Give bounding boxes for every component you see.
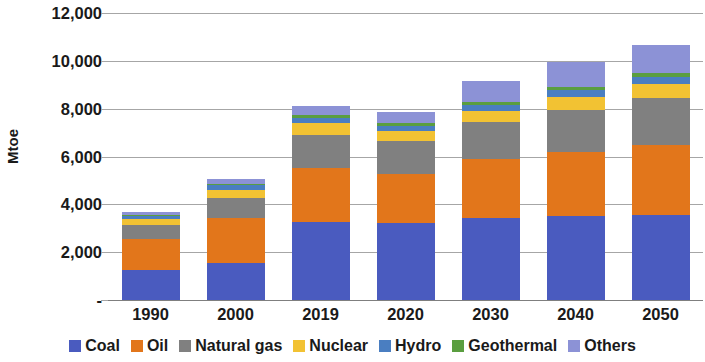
bar-group[interactable] [547,62,605,300]
bar-segment[interactable] [547,152,605,217]
x-tick-label: 2040 [533,305,618,324]
plot-area [108,13,703,300]
x-tick-label: 1990 [108,305,193,324]
legend-label: Oil [147,338,168,354]
legend-swatch-icon [568,340,580,352]
legend-item[interactable]: Oil [131,338,168,354]
bar-segment[interactable] [632,84,690,98]
legend-item[interactable]: Geothermal [452,338,557,354]
bar-segment[interactable] [122,225,180,239]
x-tick-label: 2050 [618,305,703,324]
bar-series-container [108,13,703,300]
bar-segment[interactable] [292,168,350,221]
axis-tick-mark [101,300,108,301]
legend-label: Others [584,338,636,354]
bar-group[interactable] [632,45,690,300]
legend-label: Hydro [395,338,441,354]
legend-swatch-icon [379,340,391,352]
bar-segment[interactable] [377,131,435,141]
legend-item[interactable]: Coal [69,338,120,354]
bar-group[interactable] [462,81,520,300]
y-tick-label: 10,000 [26,53,102,70]
legend-label: Nuclear [309,338,368,354]
bar-segment[interactable] [632,45,690,73]
y-tick-label: 4,000 [26,196,102,213]
axis-tick-mark [101,204,108,205]
y-tick-label: 12,000 [26,5,102,22]
bar-group[interactable] [122,212,180,300]
gridline [108,300,703,301]
legend-item[interactable]: Nuclear [293,338,368,354]
bar-segment[interactable] [207,263,265,300]
bar-segment[interactable] [547,110,605,152]
bar-segment[interactable] [462,218,520,301]
legend-swatch-icon [179,340,191,352]
bar-segment[interactable] [122,270,180,300]
legend-swatch-icon [131,340,143,352]
x-tick-label: 2030 [448,305,533,324]
y-axis-tick-labels: -2,0004,0006,0008,00010,00012,000 [24,0,102,362]
axis-tick-mark [101,61,108,62]
legend-swatch-icon [452,340,464,352]
bar-segment[interactable] [547,97,605,110]
legend-item[interactable]: Hydro [379,338,441,354]
bar-segment[interactable] [122,239,180,270]
bar-segment[interactable] [292,123,350,135]
bar-segment[interactable] [207,198,265,218]
bar-segment[interactable] [462,159,520,218]
x-tick-label: 2020 [363,305,448,324]
legend-label: Geothermal [468,338,557,354]
x-tick-label: 2000 [193,305,278,324]
bar-segment[interactable] [377,223,435,300]
axis-tick-mark [101,109,108,110]
bar-segment[interactable] [547,62,605,87]
bar-segment[interactable] [462,81,520,102]
y-tick-label: 2,000 [26,244,102,261]
legend-swatch-icon [69,340,81,352]
legend-label: Natural gas [195,338,282,354]
chart-legend: CoalOilNatural gasNuclearHydroGeothermal… [0,338,705,354]
axis-tick-mark [101,157,108,158]
bar-segment[interactable] [377,141,435,174]
bar-segment[interactable] [207,218,265,263]
x-tick-label: 2019 [278,305,363,324]
bar-segment[interactable] [207,190,265,199]
bar-segment[interactable] [292,135,350,168]
bar-segment[interactable] [377,112,435,123]
legend-item[interactable]: Natural gas [179,338,282,354]
bar-segment[interactable] [632,98,690,145]
y-axis-title: Mtoe [4,117,21,177]
bar-segment[interactable] [547,216,605,300]
legend-item[interactable]: Others [568,338,636,354]
bar-group[interactable] [207,179,265,300]
y-tick-label: - [26,292,102,309]
y-tick-label: 8,000 [26,101,102,118]
bar-segment[interactable] [632,145,690,215]
bar-group[interactable] [377,112,435,300]
bar-group[interactable] [292,106,350,300]
bar-segment[interactable] [292,106,350,115]
bar-segment[interactable] [462,111,520,122]
bar-segment[interactable] [462,122,520,159]
y-tick-label: 6,000 [26,149,102,166]
bar-segment[interactable] [632,215,690,300]
bar-segment[interactable] [632,77,690,84]
legend-swatch-icon [293,340,305,352]
axis-tick-mark [101,252,108,253]
stacked-bar-chart: Mtoe -2,0004,0006,0008,00010,00012,000 1… [0,0,705,362]
axis-tick-mark [101,13,108,14]
legend-label: Coal [85,338,120,354]
bar-segment[interactable] [292,222,350,300]
bar-segment[interactable] [377,174,435,222]
